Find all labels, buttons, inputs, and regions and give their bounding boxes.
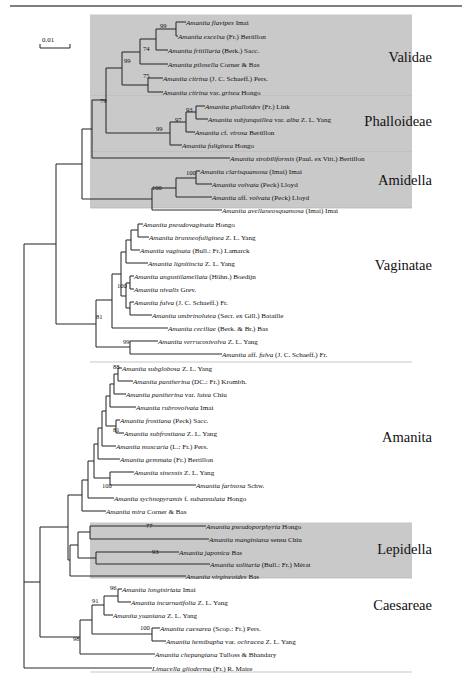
bootstrap-value: 100: [140, 624, 151, 631]
bootstrap-value: 100: [186, 169, 197, 176]
scale-bar-line: [40, 44, 70, 48]
section-band-lepidella: [90, 523, 412, 578]
tree-canvas: 0.01 99749975799397991001001008199888110…: [0, 0, 472, 696]
phylogenetic-tree-figure: 0.01 99749975799397991001001008199888110…: [0, 0, 472, 696]
bootstrap-value: 79: [100, 97, 107, 104]
taxon-label: Amanita fuliginea Hongo: [181, 142, 255, 150]
bootstrap-value: 100: [152, 184, 163, 191]
taxon-label: Amanita pantherina (DC.: Fr.) Krombh.: [132, 378, 247, 386]
bootstrap-value: 81: [113, 426, 120, 433]
taxon-label: Amanita fritillaria (Berk.) Sacc.: [167, 47, 259, 55]
taxon-label: Amanita strobiliformis (Paul. ex Vitt.) …: [229, 155, 365, 163]
taxon-label: Amanita gemmata (Fr.) Bertillon: [119, 456, 213, 464]
bootstrap-value: 91: [92, 597, 99, 604]
taxon-label: Amanita hemibapha var. ochracea Z. L. Ya…: [165, 638, 296, 646]
bootstrap-value: 100: [117, 282, 128, 289]
bootstrap-value: 75: [143, 72, 150, 79]
bootstrap-value: 99: [123, 338, 130, 345]
section-label-amidella: Amidella: [378, 172, 433, 188]
taxon-label: Amanita pseudovaginata Hongo: [142, 221, 235, 229]
bootstrap-value: 99: [124, 57, 131, 64]
taxon-label: Amanita volvata (Peck) Lloyd: [211, 181, 298, 189]
taxon-label: Amanita frostiana (Peck) Sacc.: [119, 417, 209, 425]
section-label-phalloideae: Phalloideae: [364, 113, 432, 129]
taxon-label: Amanita subfrostiana Z. L. Yang: [123, 430, 217, 438]
taxon-label: Amanita phalloides (Fr.) Link: [204, 103, 290, 111]
taxon-label: Amanita cf. virosa Bertillon: [194, 129, 275, 137]
taxon-label: Amanita manginiana sensu Chiu: [208, 536, 302, 544]
section-label-caesareae: Caesareae: [373, 597, 432, 613]
taxon-label: Amanita angustilamellata (Höhn.) Boedijn: [133, 273, 256, 281]
taxon-label: Amanita virgineoides Bas: [185, 573, 259, 581]
taxon-label: Amanita japonica Bas: [178, 549, 242, 557]
bootstrap-value: 97: [175, 116, 182, 123]
taxon-label: Amanita incarnatifolia Z. L. Yang: [130, 599, 228, 607]
taxon-label: Limacella glioderma (Fr.) R. Maire: [151, 665, 253, 673]
scale-bar: 0.01: [40, 36, 70, 48]
bootstrap-value: 99: [156, 125, 163, 132]
bootstrap-value: 88: [113, 363, 120, 370]
scale-bar-label: 0.01: [42, 36, 55, 44]
taxon-label: Amanita pilosella Corner & Bas: [167, 61, 260, 69]
section-label-lepidella: Lepidella: [377, 541, 432, 557]
taxon-label: Amanita lignitincta Z. L. Yang: [147, 260, 235, 268]
bootstrap-value: 93: [186, 106, 193, 113]
taxon-label: Amanita umbrinolutea (Secr. ex Gill.) Ba…: [151, 312, 283, 320]
taxon-label: Amanita rubrovolvata Imai: [135, 404, 213, 412]
bootstrap-value: 81: [96, 313, 103, 320]
taxon-label: Amanita brunneofuliginea Z. L. Yang: [148, 234, 256, 242]
taxon-label: Amanita caesarea (Scop.: Fr.) Pers.: [159, 625, 261, 633]
taxon-label: Amanita citrina var. grisea Hongo: [162, 89, 261, 97]
taxon-label: Amanita citrina (J. C. Schaeff.) Pers.: [162, 75, 268, 83]
taxon-label: Amanita pseudoporphyria Hongo: [205, 523, 302, 531]
taxon-label: Amanita clarisquamosa (Imai) Imai: [199, 168, 302, 176]
taxon-label: Amanita mira Corner & Bas: [105, 508, 187, 516]
bootstrap-value: 96: [110, 584, 117, 591]
taxon-label: Amanita excelsa (Fr.) Bertillon: [177, 33, 266, 41]
taxon-label: Amanita longistriata Imai: [121, 586, 196, 594]
taxon-label: Amanita muscaria (L.: Fr.) Pers.: [115, 443, 208, 451]
taxon-label: Amanita farinosa Schw.: [195, 482, 265, 490]
taxon-label: Amanita solitaria (Bull.: Fr.) Mérat: [209, 561, 311, 569]
taxon-label: Amanita aff. volvata (Peck) Lloyd: [211, 194, 309, 202]
taxon-label: Amanita yuaniana Z. L. Yang: [112, 612, 198, 620]
taxon-label: Amanita aff. fulva (J. C. Schaeff.) Fr.: [221, 351, 327, 359]
bootstrap-value: 98: [73, 635, 80, 642]
taxon-label: Amanita sinensis Z. L. Yang: [133, 469, 215, 477]
bootstrap-value: 74: [143, 45, 150, 52]
taxon-label: Amanita subjunquillea var. alba Z. L. Ya…: [207, 116, 331, 124]
taxon-label: Amanita ceciliae (Berk. & Br.) Bas: [167, 325, 268, 333]
section-label-vaginatae: Vaginatae: [375, 257, 432, 273]
section-label-amanita: Amanita: [382, 429, 432, 445]
bootstrap-value: 93: [152, 548, 159, 555]
taxon-label: Amanita nivalis Grev.: [133, 286, 196, 294]
taxon-label: Amanita chepangiana Tulloss & Bhandary: [154, 651, 277, 659]
taxon-label: Amanita flavipes Imai: [185, 19, 249, 27]
taxon-label: Amanita fulva (J. C. Schaeff.) Fr.: [133, 299, 228, 307]
taxon-label: Amanita avellaneosquamosa (Imai) Imai: [221, 207, 338, 215]
taxon-label: Amanita subglobosa Z. L. Yang: [121, 365, 213, 373]
section-label-validae: Validae: [389, 49, 432, 65]
taxon-label: Amanita vaginata (Bull.: Fr.) Lamarck: [139, 247, 250, 255]
taxon-label: Amanita pantherina var. lutea Chiu: [125, 391, 227, 399]
taxon-label: Amanita verrucosivolva Z. L. Yang: [157, 338, 258, 346]
section-band-validae: [90, 15, 412, 96]
taxon-label: Amanita sychnopyramis f. subannulata Hon…: [113, 495, 247, 503]
bootstrap-value: 99: [160, 22, 167, 29]
bootstrap-value: 77: [146, 522, 153, 529]
bootstrap-value: 100: [102, 482, 113, 489]
